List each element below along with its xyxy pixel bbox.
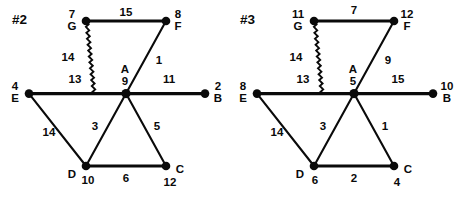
figure-title: #2 xyxy=(12,12,27,27)
edge-D-C-weight: 6 xyxy=(123,172,129,184)
edge-F-A-weight: 9 xyxy=(385,54,391,66)
node-G-letter: G xyxy=(68,20,77,32)
node-B xyxy=(201,89,210,98)
edge-G-A-zigzag xyxy=(86,21,126,94)
node-C-value: 4 xyxy=(394,176,401,188)
node-D xyxy=(310,162,319,171)
graph-figure-3: #3 11 G 12 F 8 E 10 B A 5 D 6 C 4 xyxy=(232,0,464,199)
node-F xyxy=(390,17,399,26)
node-D-letter: D xyxy=(68,168,76,180)
node-G-letter: G xyxy=(294,20,303,32)
node-D-value: 6 xyxy=(312,174,318,186)
node-A-letter: A xyxy=(349,63,357,75)
node-E xyxy=(253,89,262,98)
edge-A-D-weight: 3 xyxy=(92,120,98,132)
edge-G-F-weight: 7 xyxy=(351,4,357,16)
node-G xyxy=(310,17,319,26)
edge-A-B-weight: 11 xyxy=(163,73,176,85)
node-A-value: 9 xyxy=(122,75,128,87)
node-B-letter: B xyxy=(214,92,222,104)
node-F xyxy=(162,17,171,26)
edge-A-B-weight: 15 xyxy=(392,73,405,85)
edge-G-A-zigzag xyxy=(314,21,354,94)
node-D-value: 10 xyxy=(82,174,95,186)
edge-E-A-weight: 13 xyxy=(297,73,310,85)
figure-title: #3 xyxy=(240,12,256,27)
edge-G-A-weight: 14 xyxy=(62,51,75,63)
node-C-value: 12 xyxy=(164,176,177,188)
node-C-letter: C xyxy=(176,163,184,175)
node-B-letter: B xyxy=(443,92,451,104)
node-E-value: 4 xyxy=(12,80,19,92)
node-F-letter: F xyxy=(174,20,181,32)
node-F-letter: F xyxy=(403,20,410,32)
node-B-value: 2 xyxy=(215,80,221,92)
node-A-letter: A xyxy=(121,63,129,75)
node-C xyxy=(162,162,171,171)
node-E-letter: E xyxy=(239,92,247,104)
node-C-letter: C xyxy=(404,163,412,175)
node-B xyxy=(429,89,438,98)
node-D xyxy=(82,162,91,171)
node-G-value: 7 xyxy=(69,8,75,20)
edge-G-F-weight: 15 xyxy=(120,6,133,18)
node-B-value: 10 xyxy=(441,80,454,92)
node-D-letter: D xyxy=(296,168,304,180)
edge-E-D-weight: 14 xyxy=(43,126,56,138)
edge-A-C-weight: 1 xyxy=(382,120,389,132)
node-A xyxy=(349,89,358,98)
diagram-canvas: #2 7 G 8 F 4 E 2 B A 9 D 10 C 12 xyxy=(0,0,464,199)
node-A xyxy=(121,89,130,98)
node-E-value: 8 xyxy=(240,80,247,92)
node-C xyxy=(390,162,399,171)
edge-E-D-weight: 14 xyxy=(271,126,284,138)
node-G-value: 11 xyxy=(292,8,305,20)
edge-D-C-weight: 2 xyxy=(351,172,357,184)
edge-E-A-weight: 13 xyxy=(69,73,82,85)
graph-figure-2: #2 7 G 8 F 4 E 2 B A 9 D 10 C 12 xyxy=(0,0,232,199)
edge-A-C-weight: 5 xyxy=(154,120,161,132)
edge-E-D xyxy=(29,94,86,166)
node-A-value: 5 xyxy=(350,75,357,87)
edge-G-A-weight: 14 xyxy=(290,51,303,63)
node-E-letter: E xyxy=(11,92,19,104)
edge-A-D-weight: 3 xyxy=(320,120,326,132)
node-F-value: 12 xyxy=(401,8,414,20)
node-F-value: 8 xyxy=(175,8,182,20)
node-G xyxy=(82,17,91,26)
node-E xyxy=(25,89,34,98)
edge-E-D xyxy=(257,94,314,166)
edge-F-A-weight: 1 xyxy=(156,54,163,66)
